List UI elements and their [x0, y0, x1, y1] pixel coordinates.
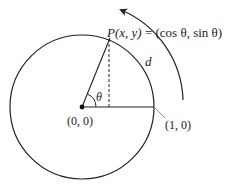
point-p-label: P(x, y) = (cos θ, sin θ) — [106, 25, 222, 40]
arc-length-label: d — [145, 54, 152, 69]
direction-arrow-arc — [121, 10, 183, 100]
leader-line — [154, 107, 165, 118]
angle-theta-label: θ — [96, 90, 102, 104]
origin-label: (0, 0) — [67, 114, 93, 128]
angle-arc — [87, 94, 96, 107]
unit-circle-diagram: P(x, y) = (cos θ, sin θ) d θ (0, 0) (1, … — [0, 0, 226, 185]
origin-dot — [80, 105, 85, 110]
one-zero-label: (1, 0) — [165, 118, 191, 132]
